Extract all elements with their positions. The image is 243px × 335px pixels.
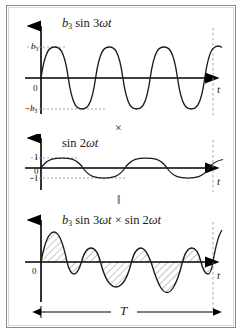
ytick-middle-plus: 1 [34,153,39,162]
ytick-top-plus: b3 [31,42,38,52]
panel-bottom: b3 sin 3ωt × sin 2ωt 0 t T [7,210,237,328]
period-label: T [120,304,127,317]
ytick-middle-minus: −1 [29,174,39,183]
xaxis-label-middle: t [217,176,220,187]
panel-middle-plot [7,134,237,196]
ytick-top-minus: −b3 [24,104,37,114]
operator-equals: ‖ [117,194,120,206]
panel-middle-title: sin 2ωt [62,137,98,150]
figure-frame: b3 sin 3ωt b3 0 −b3 t × sin 2ωt 1 0 −1 t [6,5,236,328]
operator-multiply: × [115,122,122,134]
figure-root: b3 sin 3ωt b3 0 −b3 t × sin 2ωt 1 0 −1 t [0,0,243,335]
panel-bottom-title: b3 sin 3ωt × sin 2ωt [62,214,161,228]
ytick-bottom-zero: 0 [32,267,37,276]
panel-top-plot [7,6,237,121]
ytick-top-zero: 0 [33,84,38,93]
panel-top-title: b3 sin 3ωt [62,17,112,31]
xaxis-label-bottom: t [217,270,220,281]
panel-middle: sin 2ωt 1 0 −1 t [7,134,237,194]
xaxis-label-top: t [217,84,220,95]
